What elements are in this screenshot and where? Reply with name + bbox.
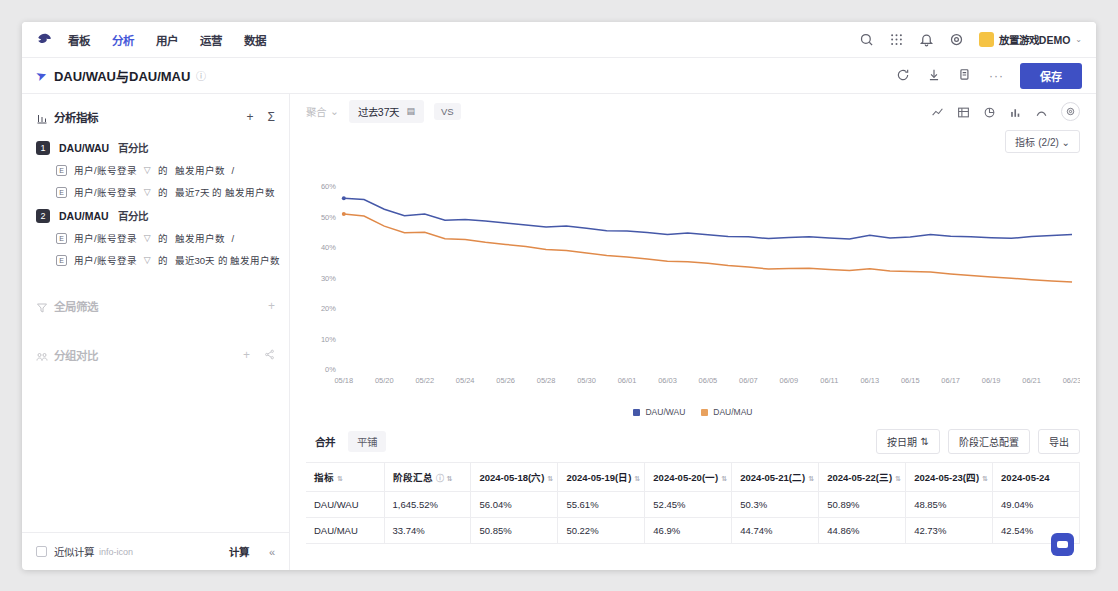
apps-grid-icon[interactable] — [889, 32, 904, 47]
metric-2-row-1-event[interactable]: 用户/账号登录 — [74, 253, 137, 267]
group-compare-section[interactable]: 分组对比 + — [36, 342, 275, 369]
chart-svg: 0%10%20%30%40%50%60%05/1805/2005/2205/24… — [306, 155, 1080, 405]
metric-1-row-1-event[interactable]: 用户/账号登录 — [74, 185, 137, 199]
col-1[interactable]: 阶段汇总ⓘ⇅ — [384, 463, 471, 492]
metric-2-header: 2 DAU/MAU 百分比 — [36, 208, 275, 223]
line-chart[interactable]: 0%10%20%30%40%50%60%05/1805/2005/2205/24… — [306, 155, 1080, 405]
account-menu[interactable]: 放置游戏DEMO ⌄ — [979, 32, 1082, 47]
assistant-icon[interactable] — [1051, 533, 1074, 556]
col-5[interactable]: 2024-05-21(二)⇅ — [732, 463, 819, 492]
col-0[interactable]: 指标⇅ — [306, 463, 384, 492]
col-6[interactable]: 2024-05-22(三)⇅ — [819, 463, 906, 492]
settings-icon[interactable] — [949, 32, 964, 47]
sigma-icon[interactable]: Σ — [268, 111, 275, 123]
bell-icon[interactable] — [919, 32, 934, 47]
collapse-panel-icon[interactable]: « — [269, 546, 275, 558]
trend-icon[interactable] — [1035, 105, 1048, 118]
funnel-icon[interactable]: ▽ — [144, 187, 151, 197]
legend-swatch-0 — [633, 409, 640, 416]
line-chart-icon[interactable] — [931, 105, 944, 118]
svg-text:05/30: 05/30 — [577, 376, 596, 385]
metric-2-row-0-event[interactable]: 用户/账号登录 — [74, 231, 137, 245]
more-options-icon[interactable]: ··· — [989, 69, 1004, 83]
add-group-button[interactable]: + — [243, 349, 250, 361]
add-global-filter-button[interactable]: + — [268, 300, 275, 312]
approx-calc-label: 近似计算 — [54, 544, 94, 559]
metric-2-name[interactable]: DAU/MAU — [59, 210, 109, 222]
chart-view-switcher — [931, 102, 1080, 121]
bar-chart-icon[interactable] — [1009, 105, 1022, 118]
pin-icon[interactable]: ➤ — [34, 67, 49, 85]
legend-label-0: DAU/WAU — [645, 407, 685, 417]
funnel-icon[interactable]: ▽ — [144, 233, 151, 243]
legend-item-1[interactable]: DAU/MAU — [701, 407, 752, 417]
download-icon[interactable] — [927, 68, 942, 83]
svg-text:06/21: 06/21 — [1022, 376, 1041, 385]
calculate-button[interactable]: 计算 — [229, 544, 249, 559]
funnel-icon[interactable]: ▽ — [144, 165, 151, 175]
col-7[interactable]: 2024-05-23(四)⇅ — [906, 463, 993, 492]
legend-item-0[interactable]: DAU/WAU — [633, 407, 685, 417]
metric-1-row-1-measure[interactable]: 最近7天 的 触发用户数 — [175, 185, 276, 199]
col-2[interactable]: 2024-05-18(六)⇅ — [471, 463, 558, 492]
metric-1-row-0-event[interactable]: 用户/账号登录 — [74, 163, 137, 177]
metric-2-row-1-measure[interactable]: 最近30天 的 触发用户数 — [175, 253, 281, 267]
table-row[interactable]: DAU/MAU 33.74% 50.85% 50.22% 46.9% 44.74… — [306, 518, 1080, 544]
row-1-cell-7: 42.73% — [906, 518, 993, 544]
aggregation-select[interactable]: 聚合 ⌄ — [306, 104, 339, 119]
table-action-buttons: 按日期 ⇅ 阶段汇总配置 导出 — [876, 429, 1080, 454]
copy-icon[interactable] — [958, 68, 973, 83]
approx-calc-checkbox[interactable] — [36, 546, 47, 557]
sort-icon: ⇅ — [895, 475, 901, 482]
nav-item-1[interactable]: 分析 — [112, 32, 134, 48]
bird-logo-icon[interactable] — [36, 31, 54, 49]
metrics-table: 指标⇅ 阶段汇总ⓘ⇅ 2024-05-18(六)⇅ 2024-05-19(日)⇅… — [306, 462, 1080, 544]
sort-by-date-button[interactable]: 按日期 ⇅ — [876, 429, 940, 454]
metric-2-row-0-measure[interactable]: 触发用户数 — [175, 231, 225, 245]
svg-text:40%: 40% — [321, 243, 336, 252]
svg-text:60%: 60% — [321, 182, 336, 191]
refresh-icon[interactable] — [896, 68, 911, 83]
metric-2-row-1-de: 的 — [158, 253, 168, 267]
metric-selector-dropdown[interactable]: 指标 (2/2) ⌄ — [1005, 130, 1080, 153]
save-button[interactable]: 保存 — [1020, 63, 1082, 89]
calendar-icon: ▤ — [407, 106, 416, 116]
search-icon[interactable] — [859, 32, 874, 47]
export-button[interactable]: 导出 — [1038, 429, 1080, 454]
col-8[interactable]: 2024-05-24 — [993, 463, 1080, 492]
metric-1-row-0-measure[interactable]: 触发用户数 — [175, 163, 225, 177]
global-filter-section[interactable]: 全局筛选 + — [36, 293, 275, 320]
nav-item-3[interactable]: 运营 — [200, 32, 222, 48]
tab-merged[interactable]: 合并 — [306, 431, 344, 452]
svg-text:10%: 10% — [321, 335, 336, 344]
svg-text:06/05: 06/05 — [699, 376, 718, 385]
info-icon[interactable]: ⓘ — [196, 68, 206, 83]
gear-icon[interactable] — [1061, 102, 1080, 121]
stage-summary-config-button[interactable]: 阶段汇总配置 — [948, 429, 1030, 454]
pie-chart-icon[interactable] — [983, 105, 996, 118]
metric-1-name[interactable]: DAU/WAU — [59, 142, 109, 154]
date-range-picker[interactable]: 过去37天 ▤ — [349, 100, 424, 123]
metric-1-type[interactable]: 百分比 — [118, 140, 148, 155]
share-icon[interactable] — [264, 349, 275, 362]
nav-item-0[interactable]: 看板 — [68, 32, 90, 48]
col-4[interactable]: 2024-05-20(一)⇅ — [645, 463, 732, 492]
metric-2-type[interactable]: 百分比 — [118, 208, 148, 223]
add-metric-button[interactable]: + — [247, 111, 254, 123]
top-navigation-bar: 看板 分析 用户 运营 数据 放置游戏DEMO ⌄ — [22, 22, 1096, 58]
table-row[interactable]: DAU/WAU 1,645.52% 56.04% 55.61% 52.45% 5… — [306, 492, 1080, 518]
sort-icon: ⇅ — [921, 436, 929, 447]
funnel-icon[interactable]: ▽ — [144, 255, 151, 265]
metric-block-1: 1 DAU/WAU 百分比 E 用户/账号登录 ▽ 的 触发用户数 / E — [36, 140, 275, 199]
nav-item-2[interactable]: 用户 — [156, 32, 178, 48]
nav-item-4[interactable]: 数据 — [244, 32, 266, 48]
title-bar-actions: ··· 保存 — [896, 63, 1082, 89]
col-1-label: 阶段汇总 — [393, 472, 433, 483]
tab-tiled[interactable]: 平铺 — [348, 431, 386, 452]
info-icon[interactable]: info-icon — [99, 547, 133, 557]
vs-compare-button[interactable]: VS — [434, 103, 461, 120]
table-icon[interactable] — [957, 105, 970, 118]
top-right-actions: 放置游戏DEMO ⌄ — [859, 32, 1082, 47]
col-0-label: 指标 — [314, 472, 334, 483]
col-3[interactable]: 2024-05-19(日)⇅ — [558, 463, 645, 492]
